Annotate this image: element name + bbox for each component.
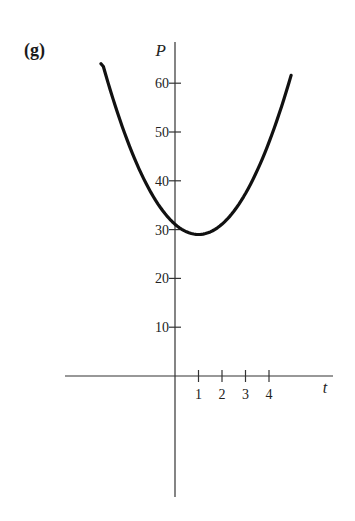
y-axis-label: P (155, 41, 166, 60)
y-tick-label: 30 (155, 223, 169, 238)
x-tick-label: 4 (266, 387, 273, 402)
x-axis-label: t (323, 379, 328, 396)
axis-ticks: 1020304050601234 (155, 76, 273, 402)
panel-label: (g) (24, 40, 45, 61)
axes (65, 42, 333, 497)
parabola-curve (101, 64, 291, 235)
x-tick-label: 1 (195, 387, 202, 402)
data-series (101, 64, 291, 235)
y-tick-label: 10 (155, 320, 169, 335)
y-tick-label: 40 (155, 174, 169, 189)
y-tick-label: 60 (155, 76, 169, 91)
chart-figure: (g) 1020304050601234 P t (0, 0, 355, 521)
x-tick-label: 3 (242, 387, 249, 402)
x-tick-label: 2 (219, 387, 226, 402)
y-tick-label: 20 (155, 271, 169, 286)
y-tick-label: 50 (155, 125, 169, 140)
chart-plot: 1020304050601234 P t (0, 0, 355, 521)
